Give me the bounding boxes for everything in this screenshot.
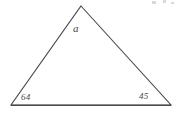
scan-artifact-speck — [171, 2, 174, 4]
scan-artifact-speck — [163, 0, 166, 3]
geometry-figure: a 64 45 — [0, 0, 178, 115]
base-left-angle-label: 64 — [21, 93, 30, 102]
apex-angle-label: a — [73, 23, 79, 34]
scan-artifact-speck — [152, 1, 156, 4]
base-right-angle-label: 45 — [139, 92, 148, 101]
